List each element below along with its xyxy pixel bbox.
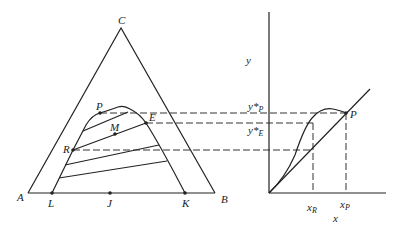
point-r — [71, 148, 75, 152]
point-j — [108, 191, 112, 195]
label-r: R — [62, 143, 70, 155]
diagram-canvas: C A B L J K P E M R y x P y*P y*E xR xP — [0, 0, 398, 228]
label-a: A — [16, 191, 24, 203]
xy-plot — [269, 12, 386, 193]
label-j: J — [107, 197, 113, 209]
label-y-star-p: y*P — [247, 100, 263, 114]
label-x-p: xP — [339, 198, 350, 212]
label-b: B — [221, 193, 228, 205]
x-axis-label: x — [332, 212, 338, 224]
point-p-xy — [344, 111, 348, 115]
label-p: P — [95, 100, 103, 112]
point-k — [183, 191, 187, 195]
label-e: E — [148, 111, 156, 123]
diagonal-line — [269, 89, 370, 193]
label-m: M — [109, 121, 120, 133]
point-l — [50, 191, 54, 195]
label-c: C — [118, 14, 126, 26]
label-y-star-e: y*E — [247, 124, 263, 138]
label-p-xy: P — [349, 108, 357, 120]
equilibrium-curve — [269, 109, 346, 193]
label-l: L — [47, 197, 54, 209]
label-k: K — [181, 197, 190, 209]
label-x-r: xR — [306, 201, 317, 215]
y-axis-label: y — [245, 54, 251, 66]
point-e — [144, 121, 148, 125]
